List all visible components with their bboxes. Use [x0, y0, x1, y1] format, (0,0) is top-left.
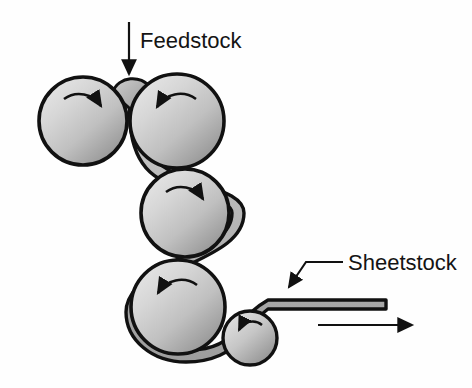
sheetstock-label: Sheetstock	[348, 250, 458, 275]
diagram-canvas: Feedstock Sheetstock	[0, 0, 472, 388]
roller-middle[interactable]	[141, 169, 229, 257]
roller-small-bottom[interactable]	[223, 311, 277, 365]
roller-lower[interactable]	[131, 260, 225, 354]
roller-body	[130, 74, 224, 168]
calender-roll-diagram: Feedstock Sheetstock	[0, 0, 472, 388]
roller-body	[141, 169, 229, 257]
roller-body	[131, 260, 225, 354]
roller-top-right[interactable]	[130, 74, 224, 168]
feedstock-label: Feedstock	[140, 28, 242, 53]
roller-top-left[interactable]	[39, 77, 127, 165]
sheetstock-leader-line	[289, 262, 343, 287]
roller-body	[223, 311, 277, 365]
roller-body	[39, 77, 127, 165]
